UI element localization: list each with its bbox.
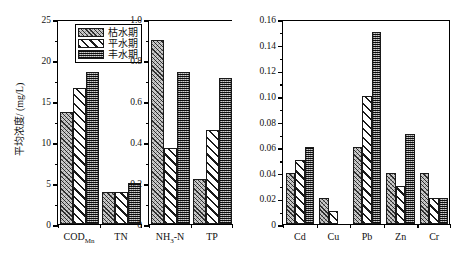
y-tick-minor — [280, 161, 283, 162]
y-tick-label: 0.04 — [259, 170, 276, 180]
y-tick-minor — [280, 187, 283, 188]
bar-Cr-丰水期 — [439, 198, 449, 224]
bar-Zn-枯水期 — [386, 173, 396, 224]
x-tick — [450, 224, 451, 228]
x-tick — [191, 224, 192, 228]
y-tick-minor — [280, 59, 283, 60]
legend-item-2: 丰水期 — [78, 49, 138, 60]
bar-NH3-N-枯水期 — [151, 40, 164, 225]
bar-CODMn-枯水期 — [60, 112, 73, 224]
x-tick — [100, 224, 101, 228]
y-tick-minor — [146, 205, 149, 206]
y-tick-major — [278, 200, 283, 201]
x-axis-label-NH3-N: NH3-N — [156, 231, 185, 247]
y-tick-major — [278, 20, 283, 21]
bar-Pb-丰水期 — [372, 32, 382, 224]
y-tick-label: 0.08 — [259, 119, 276, 129]
bar-Cr-枯水期 — [420, 173, 430, 224]
bar-Cd-枯水期 — [286, 173, 296, 224]
x-tick — [149, 224, 150, 228]
y-tick-major — [278, 72, 283, 73]
plot-area-3: 00.020.040.060.080.100.120.140.16CdCuPbZ… — [282, 20, 450, 225]
legend-item-1: 平水期 — [78, 38, 138, 49]
y-tick-major — [278, 46, 283, 47]
y-tick-major — [278, 123, 283, 124]
x-axis-label-TP: TP — [206, 231, 218, 242]
y-tick-label: 20 — [42, 57, 52, 67]
y-axis-title: 平均浓度/ (mg/L) — [11, 30, 26, 210]
x-axis-label-Pb: Pb — [362, 231, 373, 242]
legend-label-0: 枯水期 — [108, 28, 138, 38]
x-tick — [232, 224, 233, 228]
bar-NH3-N-丰水期 — [177, 72, 190, 224]
y-tick-minor — [280, 110, 283, 111]
y-tick-minor — [55, 164, 58, 165]
y-tick-label: 25 — [42, 16, 52, 26]
y-tick-label: 0.06 — [259, 144, 276, 154]
y-tick-label: 0.6 — [130, 98, 142, 108]
y-tick-label: 0.4 — [130, 139, 142, 149]
x-axis-label-Cd: Cd — [294, 231, 306, 242]
x-tick — [417, 224, 418, 228]
bar-Pb-平水期 — [362, 96, 372, 224]
y-tick-label: 0.8 — [130, 57, 142, 67]
y-tick-label: 0 — [271, 221, 276, 231]
bar-CODMn-丰水期 — [86, 72, 99, 224]
bar-TN-枯水期 — [102, 192, 115, 224]
y-tick-label: 0.10 — [259, 93, 276, 103]
y-tick-major — [144, 61, 149, 62]
y-tick-label: 15 — [42, 98, 52, 108]
bar-Pb-枯水期 — [353, 147, 363, 224]
x-axis-label-TN: TN — [114, 231, 127, 242]
bar-Zn-平水期 — [396, 186, 406, 224]
bar-Cd-丰水期 — [305, 147, 315, 224]
bar-TP-丰水期 — [219, 78, 232, 224]
legend-item-0: 枯水期 — [78, 27, 138, 38]
y-tick-label: 0.14 — [259, 42, 276, 52]
y-tick-major — [144, 143, 149, 144]
y-tick-major — [53, 143, 58, 144]
y-tick-major — [53, 184, 58, 185]
legend-swatch-dry-icon — [78, 28, 104, 37]
y-tick-label: 10 — [42, 139, 52, 149]
y-tick-minor — [55, 123, 58, 124]
bar-CODMn-平水期 — [73, 88, 86, 224]
bar-TP-平水期 — [206, 130, 219, 224]
y-tick-label: 0.2 — [130, 180, 142, 190]
y-tick-minor — [146, 82, 149, 83]
y-tick-label: 1.0 — [130, 16, 142, 26]
x-tick — [350, 224, 351, 228]
y-tick-major — [144, 102, 149, 103]
y-tick-major — [278, 148, 283, 149]
y-tick-minor — [280, 33, 283, 34]
x-tick — [58, 224, 59, 228]
y-tick-minor — [280, 136, 283, 137]
bar-Cu-枯水期 — [319, 198, 329, 224]
y-tick-label: 0.02 — [259, 196, 276, 206]
plot-area-2: 00.20.40.60.81.0NH3-NTP — [148, 20, 232, 225]
y-tick-major — [53, 102, 58, 103]
y-tick-major — [278, 174, 283, 175]
y-tick-label: 0 — [46, 221, 51, 231]
bar-TN-平水期 — [115, 192, 128, 224]
y-tick-major — [144, 20, 149, 21]
y-tick-major — [53, 61, 58, 62]
bar-Cu-平水期 — [329, 211, 339, 224]
y-tick-minor — [146, 41, 149, 42]
y-tick-major — [278, 97, 283, 98]
x-tick — [384, 224, 385, 228]
bar-Cd-平水期 — [295, 160, 305, 224]
y-tick-minor — [280, 84, 283, 85]
y-tick-minor — [146, 164, 149, 165]
chart-figure: 平均浓度/ (mg/L) 0510152025CODMnTN 枯水期 平水期 丰… — [0, 0, 463, 265]
y-tick-minor — [55, 41, 58, 42]
y-tick-minor — [280, 213, 283, 214]
y-tick-label: 5 — [46, 180, 51, 190]
bar-NH3-N-平水期 — [164, 148, 177, 224]
y-tick-minor — [146, 123, 149, 124]
x-axis-label-CODMn: CODMn — [64, 231, 95, 247]
bar-Cr-平水期 — [429, 198, 439, 224]
legend-swatch-wet-icon — [78, 50, 104, 59]
bar-Zn-丰水期 — [405, 134, 415, 224]
x-axis-label-Cr: Cr — [429, 231, 439, 242]
